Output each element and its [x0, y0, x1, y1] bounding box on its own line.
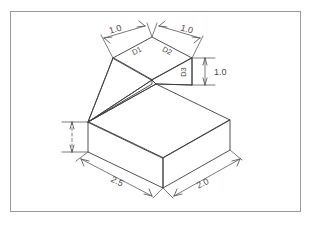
isometric-drawing: 1.0 1.0 1.0 2.5 2.0 D1 D2 D3 — [0, 0, 311, 225]
figure-root: 1.0 1.0 1.0 2.5 2.0 D1 D2 D3 — [0, 0, 311, 225]
drawing-frame — [11, 12, 301, 212]
face-label-d3: D3 — [179, 67, 188, 77]
dim-label-upper-height: 1.0 — [214, 67, 227, 77]
